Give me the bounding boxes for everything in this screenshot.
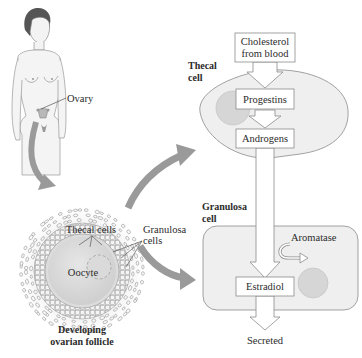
arrow-follicle-to-granulosa-cell-head: [180, 268, 196, 290]
granulosa-cells-label-line2: cells: [143, 235, 162, 246]
arrow-follicle-to-thecal-cell: [128, 155, 182, 208]
neck: [34, 42, 44, 50]
thecal-cell-shape: [30, 275, 33, 279]
granulosa-cell-label-line1: Granulosa: [202, 201, 247, 212]
thecal-cell-shape: [136, 261, 139, 266]
thecal-cell-shape: [89, 219, 93, 223]
oocyte-label: Oocyte: [68, 267, 99, 278]
thecal-cells-label: Thecal cells: [66, 224, 116, 235]
cholesterol-label-line2: from blood: [242, 48, 290, 59]
hormone-synthesis-diagram: Ovary Oocyte Thecal cells Granulosa cell…: [0, 0, 362, 358]
human-figure: Ovary: [12, 8, 94, 175]
thecal-cell-label-line1: Thecal: [188, 60, 217, 71]
thecal-cell-shape: [73, 214, 78, 217]
thecal-cell-shape: [83, 320, 87, 323]
thecal-cell-shape: [78, 209, 81, 212]
androgens-label: Androgens: [242, 133, 288, 144]
thecal-cell-shape: [142, 265, 145, 269]
right-arm: [58, 58, 66, 138]
arrow-follicle-to-granulosa-cell: [140, 246, 184, 278]
thecal-cell-shape: [24, 266, 28, 270]
arrow-follicle-to-thecal-cell-head: [176, 144, 196, 166]
face: [30, 17, 50, 43]
thecal-cell-shape: [137, 270, 140, 273]
thecal-cell-shape: [132, 272, 135, 277]
thecal-cell-shape: [20, 261, 23, 266]
granulosa-cell-label-line2: cell: [202, 213, 217, 224]
androgens-box: Androgens: [236, 129, 294, 148]
thecal-cell-shape: [73, 209, 78, 212]
secreted-label: Secreted: [247, 335, 284, 346]
thecal-cell-shape: [20, 273, 23, 277]
thecal-cell-shape: [24, 270, 27, 274]
aromatase-label: Aromatase: [291, 232, 337, 243]
granulosa-cells-label-line1: Granulosa: [143, 224, 186, 235]
thecal-cell-shape: [77, 218, 81, 221]
progestins-label: Progestins: [243, 94, 287, 105]
cholesterol-label-line1: Cholesterol: [241, 36, 289, 47]
thecal-cell-label-line2: cell: [188, 72, 203, 83]
follicle-caption-line2: ovarian follicle: [50, 336, 114, 347]
estradiol-box: Estradiol: [236, 277, 294, 296]
thecal-cell-shape: [132, 266, 134, 270]
thecal-cell-shape: [72, 320, 76, 323]
progestins-box: Progestins: [236, 89, 294, 109]
thecal-cell-shape: [140, 280, 144, 284]
cholesterol-box: Cholesterol from blood: [235, 33, 295, 62]
ovarian-follicle: Oocyte Thecal cells Granulosa cells Deve…: [20, 209, 187, 347]
thecal-cell-shape: [29, 266, 32, 271]
follicle-caption-line1: Developing: [58, 324, 106, 335]
granulosa-cell-nucleus: [298, 268, 328, 298]
ovary-label: Ovary: [67, 93, 94, 104]
estradiol-label: Estradiol: [246, 281, 284, 292]
thecal-cell-shape: [86, 214, 91, 217]
thecal-cell-shape: [141, 272, 144, 276]
thecal-cell-shape: [84, 209, 88, 212]
